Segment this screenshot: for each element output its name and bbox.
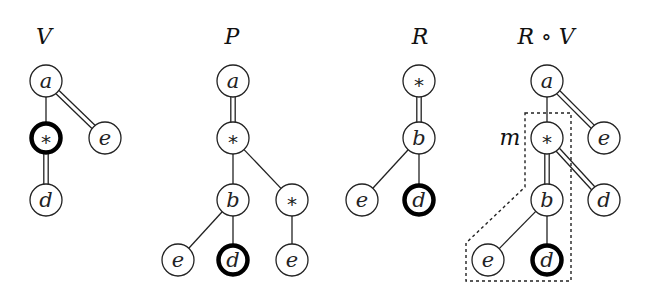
- tree-node-p-s2: *: [276, 184, 308, 216]
- tree-node-v-s-highlighted: *: [32, 124, 61, 155]
- double-edge-a-e1: [557, 91, 594, 128]
- tree-node-r-b: b: [403, 122, 435, 154]
- node-label: a: [227, 69, 240, 93]
- node-label: d: [39, 188, 52, 212]
- edge-b-e: [373, 150, 408, 188]
- tree-title-rov: R ∘ V: [516, 24, 576, 49]
- node-label: b: [412, 126, 425, 150]
- tree-node-r-e: e: [346, 184, 378, 216]
- double-edge-a-s1: [231, 97, 235, 122]
- tree-node-v-d: d: [30, 184, 62, 216]
- node-label: e: [286, 248, 298, 272]
- double-edge-a-e: [56, 91, 95, 129]
- node-label: *: [287, 192, 297, 216]
- tree-node-rov-a: a: [531, 65, 563, 97]
- tree-node-rov-s: *: [531, 122, 563, 154]
- annotation-label-m: m: [500, 125, 521, 150]
- double-edge-s-d1: [556, 148, 595, 189]
- tree-node-rov-b: b: [531, 184, 563, 216]
- tree-node-rov-d2-highlighted: d: [533, 246, 562, 275]
- tree-node-p-s1: *: [217, 122, 249, 154]
- node-label: d: [540, 248, 553, 272]
- tree-node-v-a: a: [30, 65, 62, 97]
- node-label: *: [542, 130, 552, 154]
- node-label: a: [40, 69, 53, 93]
- node-label: b: [540, 188, 553, 212]
- double-edge-s-b: [545, 154, 549, 184]
- double-edge-s-d: [44, 154, 48, 184]
- tree-node-p-e2: e: [276, 244, 308, 276]
- node-label: a: [541, 69, 554, 93]
- tree-node-p-a: a: [217, 65, 249, 97]
- tree-title-r: R: [411, 24, 429, 49]
- double-edge-s-b: [417, 97, 421, 122]
- tree-diagram-canvas: a*eda*b*ede*beda*ebded VPRR ∘ Vm: [0, 0, 654, 297]
- node-label: e: [598, 126, 610, 150]
- tree-node-r-d-highlighted: d: [405, 186, 434, 215]
- node-label: e: [172, 248, 184, 272]
- tree-title-v: V: [36, 24, 54, 49]
- node-label: d: [412, 188, 425, 212]
- node-label: *: [414, 73, 424, 97]
- node-label: e: [356, 188, 368, 212]
- tree-node-p-e1: e: [162, 244, 194, 276]
- tree-node-rov-e2: e: [472, 244, 504, 276]
- tree-node-r-s: *: [403, 65, 435, 97]
- tree-node-p-b: b: [217, 184, 249, 216]
- tree-node-rov-e1: e: [588, 122, 620, 154]
- node-label: e: [99, 126, 111, 150]
- tree-node-v-e: e: [89, 122, 121, 154]
- tree-title-p: P: [224, 24, 241, 49]
- tree-node-rov-d1: d: [588, 184, 620, 216]
- node-label: *: [228, 130, 238, 154]
- edge-layer: [44, 91, 595, 249]
- edge-b-e2: [499, 211, 536, 248]
- edge-b-e1: [189, 212, 222, 248]
- node-layer: a*eda*b*ede*beda*ebded: [30, 65, 620, 276]
- node-label: *: [41, 130, 51, 154]
- node-label: d: [597, 188, 610, 212]
- node-label: d: [226, 248, 239, 272]
- edge-s1-s2: [244, 150, 281, 189]
- node-label: e: [482, 248, 494, 272]
- tree-node-p-d-highlighted: d: [219, 246, 248, 275]
- node-label: b: [226, 188, 239, 212]
